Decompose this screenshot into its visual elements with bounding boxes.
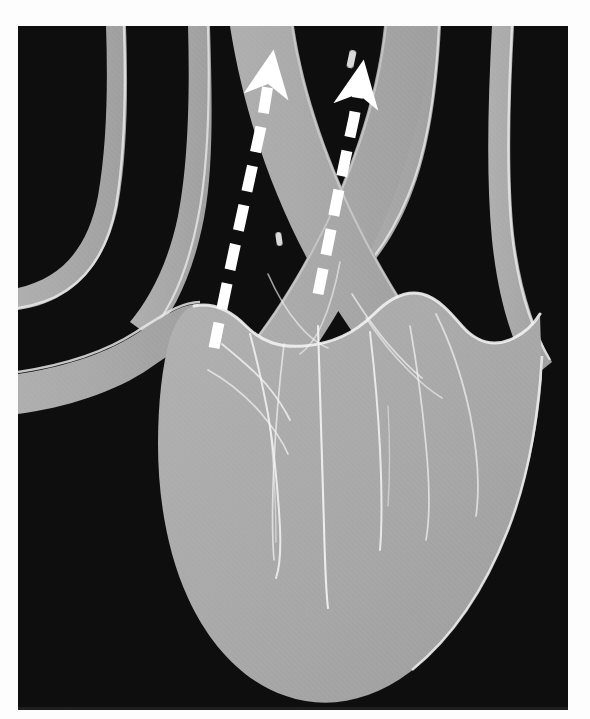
anatomy-diagram [18,26,568,710]
figure-root [0,0,590,719]
figure-caption [0,0,1,1]
anatomical-illustration-plate [18,26,568,710]
